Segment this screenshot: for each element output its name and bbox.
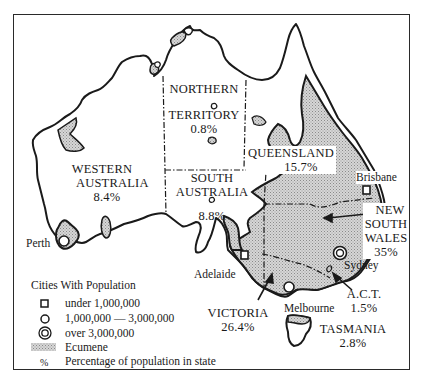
label-western-australia: WESTERN AUSTRALIA 8.4% [62,162,142,204]
nsw-name-line1: NEW [363,203,409,217]
city-label-perth: Perth [26,237,50,250]
vic-name: VICTORIA [206,306,270,320]
wa-name-line2: AUSTRALIA [62,176,142,190]
label-tasmania: TASMANIA 2.8% [318,322,388,350]
legend-circle-icon [41,315,49,323]
legend-item-over-3m: over 3,000,000 [65,327,134,340]
city-label-adelaide: Adelaide [194,268,236,281]
act-symbol [327,266,332,272]
tas-percent: 2.8% [318,336,388,350]
nt-name-line1: NORTHERN [164,82,244,96]
sydney-symbol-inner [337,250,344,257]
act-name: A.C.T. [344,287,384,301]
ecumene-sw-inland [101,216,111,238]
nsw-name-line3: WALES [363,231,409,245]
legend-ecumene-swatch-icon [31,343,56,351]
tas-name: TASMANIA [318,322,388,336]
label-victoria: VICTORIA 26.4% [206,306,270,334]
perth-symbol [59,236,69,246]
wa-percent: 8.4% [62,190,142,204]
sa-name-line2: AUSTRALIA [172,185,252,199]
qld-percent: 15.7% [246,160,336,174]
adelaide-symbol [241,251,248,259]
sa-percent: 8.8% [172,209,252,223]
legend-item-percentage: Percentage of population in state [65,355,216,368]
act-percent: 1.5% [344,301,384,315]
city-label-melbourne: Melbourne [284,302,334,315]
nsw-percent: 35% [363,245,409,259]
nt-name-line2: TERRITORY [164,108,244,122]
tasmania-ecumene [288,315,310,324]
legend-square-icon [41,300,48,307]
legend-item-under-1m: under 1,000,000 [65,297,140,310]
gulf-island [155,62,160,67]
legend-item-ecumene: Ecumene [65,341,108,354]
brisbane-symbol [363,186,370,194]
sa-name-line1: SOUTH [172,171,252,185]
city-label-brisbane: Brisbane [356,171,397,184]
label-new-south-wales: NEW SOUTH WALES 35% [363,203,409,259]
legend-item-1m-3m: 1,000,000 — 3,000,000 [65,312,174,325]
label-south-australia: SOUTH AUSTRALIA 8.8% [172,171,252,223]
label-northern-territory: NORTHERN TERRITORY 0.8% [164,82,244,136]
city-label-sydney: Sydney [344,259,379,272]
island-melville [184,28,192,35]
melbourne-symbol [284,282,294,292]
legend-percent-icon: % [40,356,48,369]
label-queensland: QUEENSLAND 15.7% [246,146,336,174]
label-act: A.C.T. 1.5% [344,287,384,315]
vic-percent: 26.4% [206,320,270,334]
legend-double-circle-inner-icon [42,330,48,336]
wa-name-line1: WESTERN [62,162,142,176]
legend-title: Cities With Population [31,279,136,292]
nsw-name-line2: SOUTH [363,217,409,231]
qld-name: QUEENSLAND [246,146,336,160]
ecumene-nt-center [208,137,216,144]
nt-percent: 0.8% [164,122,244,136]
